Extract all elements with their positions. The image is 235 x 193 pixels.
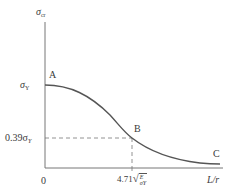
x-axis-label: L/r xyxy=(207,175,219,185)
point-a-label: A xyxy=(49,70,56,80)
stability-curve xyxy=(45,85,220,164)
origin-label: 0 xyxy=(41,176,46,186)
point-b-label: B xyxy=(134,124,141,134)
chart-canvas xyxy=(0,0,235,193)
y-axis-label: σcr xyxy=(36,7,46,18)
tick-039-label: 0.39σY xyxy=(5,133,31,144)
point-c-label: C xyxy=(213,149,220,159)
sigma-y-tick: σY xyxy=(20,80,29,91)
x-tick-label: 4.71√EσY xyxy=(117,173,147,186)
